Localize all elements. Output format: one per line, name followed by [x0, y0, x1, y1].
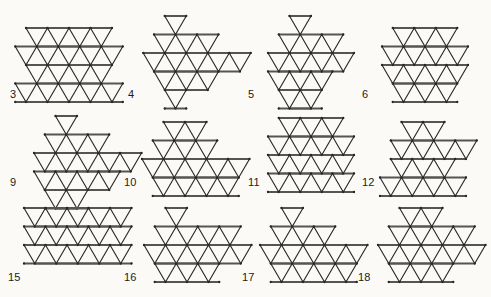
lattice-edge	[66, 135, 77, 154]
lattice-vertex	[323, 244, 325, 246]
lattice-edge	[165, 72, 176, 91]
lattice-vertex	[154, 281, 156, 283]
lattice-edge	[457, 65, 468, 84]
lattice-edge	[34, 153, 45, 172]
lattice-edge	[37, 65, 48, 84]
lattice-vertex	[465, 176, 467, 178]
lattice-edge	[99, 135, 110, 154]
lattice-vertex	[164, 52, 166, 54]
lattice-vertex	[109, 207, 111, 209]
lattice-vertex	[299, 89, 301, 91]
lattice-edge	[292, 227, 303, 246]
lattice-edge	[99, 227, 110, 246]
lattice-edge	[436, 47, 447, 66]
lattice-vertex	[463, 244, 465, 246]
lattice-vertex	[422, 121, 424, 123]
lattice-edge	[279, 155, 290, 174]
lattice-edge	[176, 264, 187, 283]
lattice-edge	[382, 47, 393, 66]
lattice-vertex	[108, 189, 110, 191]
lattice-vertex	[68, 27, 70, 29]
lattice-edge	[410, 264, 421, 283]
lattice-edge	[80, 84, 91, 103]
lattice-vertex	[321, 107, 323, 109]
lattice-vertex	[57, 45, 59, 47]
lattice-vertex	[310, 70, 312, 72]
lattice-vertex	[25, 64, 27, 66]
lattice-edge	[26, 28, 37, 47]
lattice-vertex	[345, 244, 347, 246]
lattice-edge	[26, 84, 37, 103]
lattice-vertex	[120, 262, 122, 264]
lattice-vertex	[299, 154, 301, 156]
lattice-vertex	[467, 45, 469, 47]
lattice-edge	[207, 178, 218, 197]
lattice-vertex	[239, 70, 241, 72]
lattice-edge	[335, 264, 346, 283]
lattice-vertex	[388, 225, 390, 227]
lattice-edge	[46, 227, 57, 246]
figure-label-17: 17	[242, 272, 255, 283]
lattice-edge	[78, 245, 89, 264]
lattice-vertex	[381, 64, 383, 66]
lattice-edge	[322, 174, 333, 193]
lattice-edge	[143, 53, 154, 72]
lattice-edge	[48, 84, 59, 103]
lattice-edge	[197, 53, 208, 72]
lattice-vertex	[288, 15, 290, 17]
lattice-vertex	[342, 33, 344, 35]
lattice-edge	[26, 65, 37, 84]
lattice-vertex	[130, 207, 132, 209]
lattice-vertex	[195, 176, 197, 178]
lattice-vertex	[390, 139, 392, 141]
lattice-edge	[209, 245, 220, 264]
lattice-edge	[174, 122, 185, 141]
lattice-edge	[282, 264, 293, 283]
lattice-edge	[414, 84, 425, 103]
lattice-edge	[67, 208, 78, 227]
lattice-edge	[311, 90, 322, 109]
lattice-vertex	[474, 225, 476, 227]
lattice-vertex	[259, 244, 261, 246]
lattice-edge	[322, 118, 333, 137]
lattice-vertex	[288, 52, 290, 54]
lattice-vertex	[130, 262, 132, 264]
lattice-vertex	[77, 244, 79, 246]
lattice-edge	[80, 65, 91, 84]
lattice-vertex	[57, 82, 59, 84]
lattice-edge	[112, 84, 123, 103]
lattice-vertex	[313, 262, 315, 264]
lattice-edge	[400, 245, 411, 264]
lattice-vertex	[409, 225, 411, 227]
lattice-edge	[457, 47, 468, 66]
lattice-vertex	[310, 15, 312, 17]
lattice-vertex	[431, 262, 433, 264]
lattice-edge	[153, 141, 164, 160]
lattice-edge	[282, 227, 293, 246]
lattice-edge	[196, 141, 207, 160]
lattice-edge	[300, 90, 311, 109]
lattice-edge	[445, 159, 456, 178]
lattice-edge	[56, 116, 67, 135]
lattice-edge	[311, 137, 322, 156]
lattice-vertex	[44, 225, 46, 227]
lattice-edge	[77, 172, 88, 191]
lattice-edge	[311, 155, 322, 174]
lattice-edge	[78, 208, 89, 227]
lattice-vertex	[89, 101, 91, 103]
lattice-edge	[343, 174, 354, 193]
lattice-edge	[404, 47, 415, 66]
lattice-vertex	[97, 170, 99, 172]
lattice-vertex	[420, 244, 422, 246]
lattice-vertex	[184, 195, 186, 197]
lattice-vertex	[313, 225, 315, 227]
lattice-edge	[292, 245, 303, 264]
lattice-edge	[402, 122, 413, 141]
lattice-edge	[391, 178, 402, 197]
lattice-vertex	[452, 225, 454, 227]
lattice-vertex	[424, 101, 426, 103]
lattice-edge	[391, 141, 402, 160]
lattice-edge	[209, 264, 220, 283]
lattice-vertex	[379, 176, 381, 178]
lattice-edge	[45, 172, 56, 191]
